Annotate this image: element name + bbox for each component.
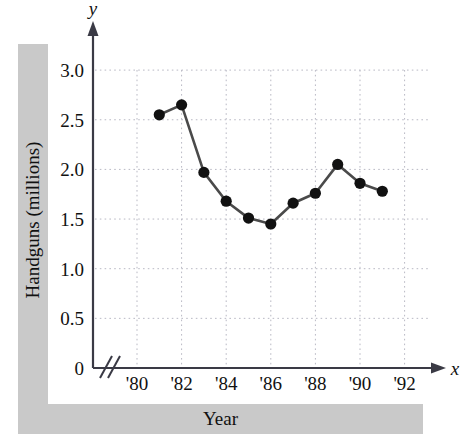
data-point [288,198,299,209]
data-point [176,99,187,110]
data-point [354,178,365,189]
data-series-line [159,105,382,224]
x-axis-ticks: '80'82'84'86'88'90'92 [126,373,416,394]
y-tick-label: 0.5 [60,308,84,329]
x-tick-label: '80 [126,373,148,394]
x-tick-label: '88 [304,373,326,394]
data-point [221,196,232,207]
axes [88,21,447,378]
line-chart-plot: 00.51.01.52.02.53.0 '80'82'84'86'88'90'9… [0,0,470,445]
y-axis-ticks: 00.51.01.52.02.53.0 [60,60,84,379]
x-tick-label: '90 [349,373,371,394]
data-point [243,212,254,223]
data-point [198,167,209,178]
chart-figure: Handguns (millions) Year 00.51.01.52.02.… [0,0,470,445]
y-tick-label: 2.5 [60,110,84,131]
data-point [265,218,276,229]
x-tick-label: '92 [393,373,415,394]
y-axis-variable-label: y [87,0,98,19]
data-point [332,159,343,170]
y-axis-arrow-icon [88,21,99,36]
x-tick-label: '86 [260,373,282,394]
x-tick-label: '84 [215,373,238,394]
y-tick-label: 1.0 [60,259,84,280]
x-tick-label: '82 [170,373,192,394]
data-point [377,186,388,197]
y-tick-label: 0 [75,358,85,379]
y-tick-label: 3.0 [60,60,84,81]
data-point [154,109,165,120]
x-axis-arrow-icon [431,363,446,374]
x-axis-variable-label: x [450,358,460,379]
gridlines [95,70,428,366]
data-point [310,188,321,199]
y-tick-label: 2.0 [60,159,84,180]
y-tick-label: 1.5 [60,209,84,230]
